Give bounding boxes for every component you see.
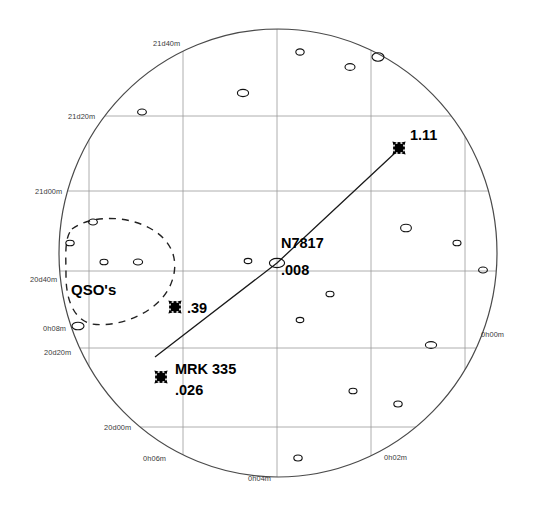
tick-dec-20d40m: 20d40m xyxy=(30,275,57,284)
tick-dec-21d40m: 21d40m xyxy=(153,39,180,48)
tick-dec-21d00m: 21d00m xyxy=(35,187,62,196)
galaxy-marker xyxy=(401,224,412,232)
tick-ra-0h00m: 0h00m xyxy=(481,330,504,339)
marker-object-1-11[interactable] xyxy=(392,141,405,154)
galaxy-marker xyxy=(296,49,304,55)
tick-ra-0h04m: 0h04m xyxy=(248,474,271,483)
finding-chart: 21d40m 21d20m 21d00m 20d40m 20d20m 20d00… xyxy=(0,0,533,513)
qso-region-outline xyxy=(66,218,175,324)
tick-ra-0h08m: 0h08m xyxy=(43,324,66,333)
marker-object-mrk335[interactable] xyxy=(154,370,167,383)
tick-ra-0h06m: 0h06m xyxy=(143,454,166,463)
galaxy-marker xyxy=(294,455,302,461)
galaxy-marker xyxy=(138,109,147,115)
mrk335-label: MRK 335 xyxy=(175,361,236,377)
galaxy-marker xyxy=(453,240,461,246)
tick-dec-20d00m: 20d00m xyxy=(104,423,131,432)
galaxy-marker xyxy=(296,317,304,322)
galaxy-marker xyxy=(237,89,248,96)
galaxy-marker xyxy=(133,259,142,265)
field-boundary-circle xyxy=(59,29,497,477)
marker-object-0-39[interactable] xyxy=(168,300,181,313)
galaxy-marker xyxy=(349,388,357,394)
n7817-label: N7817 xyxy=(281,235,324,251)
mrk335-redshift: .026 xyxy=(175,382,203,398)
object-0-39-redshift: .39 xyxy=(187,300,207,316)
tick-dec-21d20m: 21d20m xyxy=(68,112,95,121)
galaxy-marker xyxy=(244,258,252,263)
sky-plot-svg: 21d40m 21d20m 21d00m 20d40m 20d20m 20d00… xyxy=(0,0,533,513)
tick-dec-20d20m: 20d20m xyxy=(44,348,71,357)
alignment-connector-line xyxy=(155,152,396,357)
tick-ra-0h02m: 0h02m xyxy=(384,453,407,462)
galaxy-marker xyxy=(479,267,488,273)
galaxy-marker xyxy=(66,240,74,246)
galaxy-marker xyxy=(89,219,98,225)
qso-region-label: QSO's xyxy=(71,281,116,298)
coordinate-grid xyxy=(59,29,497,478)
object-1-11-redshift: 1.11 xyxy=(410,127,437,143)
galaxy-marker xyxy=(72,322,84,330)
n7817-redshift: .008 xyxy=(281,262,309,278)
galaxy-marker xyxy=(345,64,355,71)
galaxy-marker xyxy=(394,401,402,407)
galaxy-marker xyxy=(326,291,334,297)
galaxy-marker xyxy=(100,259,108,265)
galaxy-marker xyxy=(425,342,436,349)
